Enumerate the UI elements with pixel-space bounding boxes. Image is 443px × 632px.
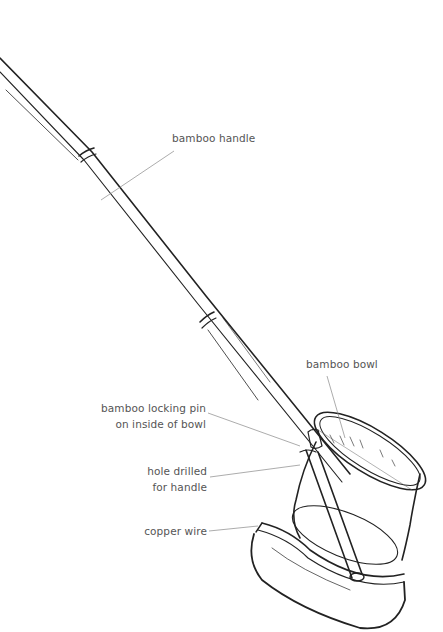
ladle-drawing — [0, 0, 443, 632]
label-locking-pin-line1: bamboo locking pin — [101, 401, 206, 416]
leader-lines — [101, 151, 345, 531]
leader-wire — [209, 526, 258, 531]
leader-bowl — [327, 376, 345, 438]
label-hole-line2: for handle — [152, 480, 207, 495]
leader-hole — [210, 465, 300, 477]
label-bamboo-handle: bamboo handle — [172, 131, 255, 146]
leader-pin — [208, 413, 300, 446]
label-hole-line1: hole drilled — [147, 464, 207, 479]
ladle-illustration: bamboo handle bamboo bowl bamboo locking… — [0, 0, 443, 632]
label-copper-wire: copper wire — [144, 524, 207, 539]
label-bamboo-bowl: bamboo bowl — [306, 357, 378, 372]
label-locking-pin-line2: on inside of bowl — [115, 417, 206, 432]
leader-handle — [101, 151, 174, 200]
